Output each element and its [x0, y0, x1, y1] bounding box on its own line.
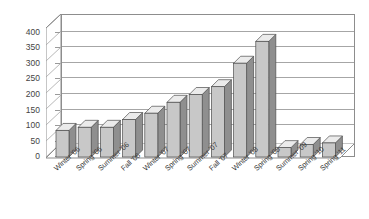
x-axis: Winter '06Spring '06Summer '06Fall '06Wi… — [0, 0, 369, 219]
bar-chart: 400 350 300 250 200 150 100 50 0 Winter … — [0, 0, 369, 219]
